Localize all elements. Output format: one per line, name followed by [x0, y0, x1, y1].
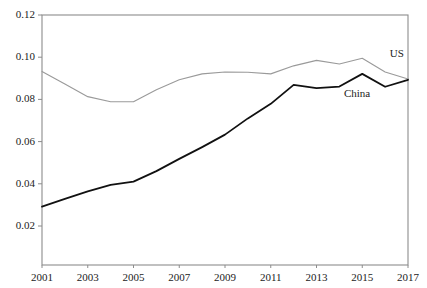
y-tick-label: 0.10 [0, 50, 35, 62]
y-tick-label: 0.12 [0, 8, 35, 20]
data-series-group [42, 58, 408, 206]
x-tick-label: 2011 [247, 271, 295, 283]
chart-figure: 0.020.040.060.080.100.12 200120032005200… [0, 0, 427, 288]
series-label-china: China [344, 87, 370, 99]
y-tick-label: 0.02 [0, 219, 35, 231]
y-tick-label: 0.06 [0, 135, 35, 147]
x-tick-label: 2009 [201, 271, 249, 283]
y-axis-ticks [38, 15, 42, 226]
x-tick-label: 2007 [155, 271, 203, 283]
y-tick-label: 0.04 [0, 177, 35, 189]
x-tick-label: 2003 [64, 271, 112, 283]
y-tick-label: 0.08 [0, 92, 35, 104]
x-tick-label: 2001 [18, 271, 66, 283]
x-tick-label: 2015 [338, 271, 386, 283]
axes-frame [42, 15, 408, 265]
x-tick-label: 2013 [293, 271, 341, 283]
x-tick-label: 2005 [110, 271, 158, 283]
series-label-us: US [390, 47, 404, 59]
chart-plot-area [0, 0, 427, 288]
x-tick-label: 2017 [384, 271, 427, 283]
